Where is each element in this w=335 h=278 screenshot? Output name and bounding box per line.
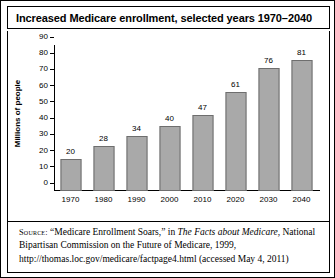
y-tick-mark [50,150,54,151]
y-tick: 10 [39,163,54,171]
y-tick-label: 20 [39,147,48,155]
source-note: Source: “Medicare Enrollment Soars,” in … [7,222,330,273]
y-tick: 40 [39,114,54,122]
bar-group[interactable]: 472010 [186,45,219,191]
bar-value-label: 28 [99,135,108,143]
source-publication-title: The Facts about Medicare [178,227,278,237]
x-tick-label: 1990 [128,196,146,204]
x-tick-label: 2030 [260,196,278,204]
y-tick-label: 10 [39,163,48,171]
y-tick-mark [50,69,54,70]
source-text: Source: “Medicare Enrollment Soars,” in … [19,226,319,266]
y-tick-label: 40 [39,114,48,122]
x-tick-label: 2000 [161,196,179,204]
y-tick-mark [50,134,54,135]
bar-value-label: 76 [264,57,273,65]
bar-group[interactable]: 402000 [153,45,186,191]
y-tick-label: 60 [39,82,48,90]
y-tick: 70 [39,65,54,73]
chart-panel: Millions of people 201970281980341990402… [7,31,330,221]
bar[interactable] [192,115,213,191]
plot-area: 2019702819803419904020004720106120207620… [54,45,318,191]
y-tick-label: 80 [39,49,48,57]
bar-value-label: 47 [198,104,207,112]
bar-value-label: 61 [231,81,240,89]
bar-value-label: 34 [132,125,141,133]
y-tick: 0 [44,179,54,187]
bar-group[interactable]: 201970 [54,45,87,191]
y-tick-mark [50,101,54,102]
bar-group[interactable]: 812040 [285,45,318,191]
source-part-one: “Medicare Enrollment Soars,” in [48,227,178,237]
y-axis-title: Millions of people [11,31,25,196]
y-tick: 80 [39,49,54,57]
x-tick-label: 2040 [293,196,311,204]
chart-title-box: Increased Medicare enrollment, selected … [7,6,330,29]
bar[interactable] [93,146,114,191]
y-axis-title-label: Millions of people [14,80,23,148]
y-tick-mark [50,53,54,54]
bar-value-label: 81 [297,49,306,57]
y-tick-mark [50,37,54,38]
bar-group[interactable]: 612020 [219,45,252,191]
x-tick-label: 2010 [194,196,212,204]
bar-group[interactable]: 762030 [252,45,285,191]
bar[interactable] [126,136,147,191]
y-tick: 50 [39,98,54,106]
x-tick-label: 1980 [95,196,113,204]
y-tick: 90 [39,33,54,41]
y-tick-mark [50,85,54,86]
bar-series: 2019702819803419904020004720106120207620… [54,45,318,191]
bar-group[interactable]: 341990 [120,45,153,191]
y-tick-label: 70 [39,65,48,73]
y-tick-label: 90 [39,33,48,41]
y-tick-label: 0 [44,179,48,187]
bar[interactable] [159,126,180,191]
plot-wrapper: Millions of people 201970281980341990402… [8,31,329,221]
figure-container: Increased Medicare enrollment, selected … [0,0,335,278]
bar-value-label: 20 [66,148,75,156]
y-tick-label: 50 [39,98,48,106]
source-label: Source: [19,228,48,237]
y-tick-mark [50,118,54,119]
bar-value-label: 40 [165,115,174,123]
y-tick: 60 [39,82,54,90]
bar-group[interactable]: 281980 [87,45,120,191]
x-tick-label: 2020 [227,196,245,204]
y-tick: 20 [39,147,54,155]
bar[interactable] [258,68,279,191]
bar[interactable] [225,92,246,191]
x-tick-label: 1970 [62,196,80,204]
y-tick-mark [50,166,54,167]
bar[interactable] [60,159,81,191]
page-title: Increased Medicare enrollment, selected … [16,12,312,24]
y-tick-mark [50,183,54,184]
y-tick-label: 30 [39,130,48,138]
y-tick: 30 [39,130,54,138]
bar[interactable] [291,60,312,191]
